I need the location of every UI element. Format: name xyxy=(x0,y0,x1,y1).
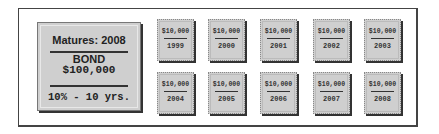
coupon-year: 2007 xyxy=(314,95,349,103)
coupon: $10,000 2008 xyxy=(364,72,401,114)
coupon-amount: $10,000 xyxy=(261,81,296,88)
coupon-amount: $10,000 xyxy=(314,81,349,88)
divider xyxy=(371,91,394,92)
coupon: $10,000 2007 xyxy=(313,72,350,114)
coupon: $10,000 2002 xyxy=(313,19,350,61)
divider xyxy=(371,38,394,39)
coupon-year: 2001 xyxy=(261,42,296,50)
coupon-amount: $10,000 xyxy=(158,81,193,88)
bond-amount: $100,000 xyxy=(38,64,140,76)
divider xyxy=(320,38,343,39)
coupon-year: 2008 xyxy=(365,95,400,103)
coupon-amount: $10,000 xyxy=(158,28,193,35)
divider xyxy=(267,91,290,92)
bond-certificate: Matures: 2008 BOND $100,000 10% - 10 yrs… xyxy=(37,22,141,111)
divider xyxy=(50,85,128,87)
coupon-year: 2006 xyxy=(261,95,296,103)
divider xyxy=(320,91,343,92)
divider xyxy=(164,38,187,39)
coupon: $10,000 1999 xyxy=(157,19,194,61)
coupon: $10,000 2000 xyxy=(208,19,245,61)
coupon: $10,000 2003 xyxy=(364,19,401,61)
bond-terms: 10% - 10 yrs. xyxy=(38,91,140,103)
coupon-year: 2005 xyxy=(209,95,244,103)
bond-maturity: Matures: 2008 xyxy=(38,34,140,46)
coupon-amount: $10,000 xyxy=(314,28,349,35)
divider xyxy=(164,91,187,92)
coupon: $10,000 2006 xyxy=(260,72,297,114)
coupon-year: 2003 xyxy=(365,42,400,50)
coupon-year: 2000 xyxy=(209,42,244,50)
coupon: $10,000 2001 xyxy=(260,19,297,61)
coupon-amount: $10,000 xyxy=(209,81,244,88)
coupon-amount: $10,000 xyxy=(365,28,400,35)
divider xyxy=(215,38,238,39)
divider xyxy=(267,38,290,39)
divider xyxy=(215,91,238,92)
coupon-year: 1999 xyxy=(158,42,193,50)
coupon-amount: $10,000 xyxy=(365,81,400,88)
coupon-year: 2002 xyxy=(314,42,349,50)
coupon-year: 2004 xyxy=(158,95,193,103)
coupon: $10,000 2004 xyxy=(157,72,194,114)
coupon: $10,000 2005 xyxy=(208,72,245,114)
coupon-amount: $10,000 xyxy=(261,28,296,35)
coupon-amount: $10,000 xyxy=(209,28,244,35)
